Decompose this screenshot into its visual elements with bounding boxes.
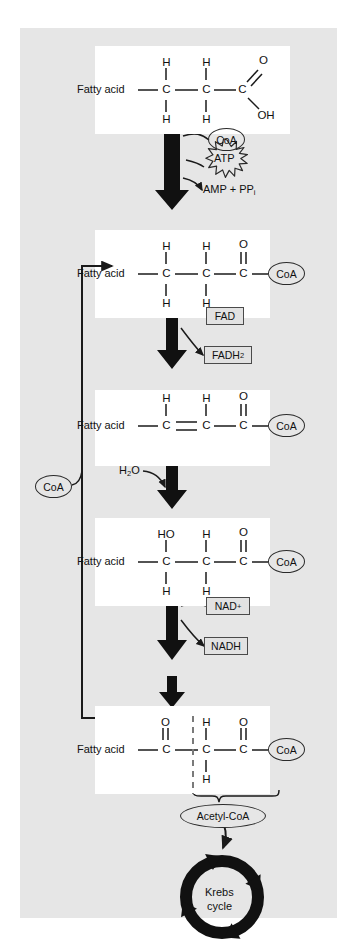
water-label: H2O [119, 465, 140, 477]
text-layer: Fatty acid H H O C C C H H OH Fatty acid… [20, 28, 337, 918]
molecule-4-top-atom-3: O [237, 527, 250, 539]
molecule-3-chain-c2: C [200, 420, 213, 432]
molecule-4-chain-c2: C [200, 556, 213, 568]
acetyl-coa-ellipse: Acetyl-CoA [180, 804, 266, 828]
water-h: H [119, 464, 127, 476]
molecule-5-left-label: Fatty acid [77, 744, 125, 755]
nad-plus-text: NAD [215, 600, 237, 612]
molecule-5-bottom-atom-2: H [200, 774, 213, 786]
nad-plus-box: NAD+ [206, 597, 250, 615]
molecule-5-coa-ellipse: CoA [268, 738, 305, 761]
molecule-1-chain-c2: C [200, 84, 213, 96]
molecule-5-chain-c3: C [237, 744, 250, 756]
molecule-1-top-atom-1: H [160, 57, 173, 69]
molecule-2-top-atom-2: H [200, 241, 213, 253]
molecule-3-chain-c3: C [237, 420, 250, 432]
molecule-1-terminal-oh: OH [256, 110, 276, 122]
molecule-1-bottom-atom-1: H [160, 114, 173, 126]
krebs-cycle-label-line2: cycle [207, 901, 232, 912]
molecule-2-chain-c3: C [237, 268, 250, 280]
molecule-5-top-atom-2: H [200, 717, 213, 729]
molecule-4-left-label: Fatty acid [77, 556, 125, 567]
fadh2-text: FADH [212, 349, 240, 361]
molecule-3-left-label: Fatty acid [77, 420, 125, 431]
fadh2-box: FADH2 [204, 346, 252, 364]
molecule-2-chain-c1: C [160, 268, 173, 280]
atp-label: ATP [214, 153, 235, 164]
molecule-5-chain-c1: C [160, 744, 173, 756]
fadh2-subscript: 2 [240, 351, 244, 360]
molecule-1-chain-c3: C [236, 84, 249, 96]
molecule-2-top-atom-3: O [237, 239, 250, 251]
molecule-5-top-atom-3: O [237, 717, 250, 729]
molecule-1-top-atom-3: O [257, 55, 270, 67]
recycled-coa-ellipse: CoA [35, 475, 72, 498]
molecule-2-bottom-atom-1: H [160, 298, 173, 310]
molecule-4-chain-c1: C [160, 556, 173, 568]
molecule-3-top-atom-2: H [200, 393, 213, 405]
nad-plus-superscript: + [237, 602, 241, 611]
molecule-5-chain-c2: C [200, 744, 213, 756]
molecule-3-top-atom-1: H [160, 393, 173, 405]
amp-pp-label: AMP + PPi [203, 184, 256, 196]
water-o: O [131, 464, 140, 476]
molecule-4-chain-c3: C [237, 556, 250, 568]
nadh-box: NADH [204, 637, 248, 655]
molecule-4-bottom-atom-2: H [200, 586, 213, 598]
molecule-3-chain-c1: C [160, 420, 173, 432]
amp-pp-text: AMP + PP [203, 183, 254, 195]
molecule-4-coa-ellipse: CoA [268, 550, 305, 573]
amp-pp-subscript: i [254, 188, 256, 197]
molecule-2-left-label: Fatty acid [77, 268, 125, 279]
molecule-1-bottom-atom-2: H [200, 114, 213, 126]
molecule-1-top-atom-2: H [200, 57, 213, 69]
molecule-5-top-atom-1: O [159, 717, 172, 729]
molecule-4-top-atom-1: HO [154, 529, 178, 541]
fad-box: FAD [206, 307, 244, 325]
beta-oxidation-figure: Fatty acid H H O C C C H H OH Fatty acid… [20, 28, 337, 918]
molecule-3-top-atom-3: O [237, 391, 250, 403]
molecule-2-top-atom-1: H [160, 241, 173, 253]
molecule-4-bottom-atom-1: H [160, 586, 173, 598]
activation-coa-ellipse: CoA [208, 128, 245, 151]
molecule-2-chain-c2: C [200, 268, 213, 280]
molecule-1-chain-c1: C [160, 84, 173, 96]
molecule-2-coa-ellipse: CoA [268, 262, 305, 285]
krebs-cycle-label-line1: Krebs [205, 887, 234, 898]
molecule-4-top-atom-2: H [200, 529, 213, 541]
molecule-3-coa-ellipse: CoA [268, 414, 305, 437]
molecule-1-left-label: Fatty acid [77, 84, 125, 95]
